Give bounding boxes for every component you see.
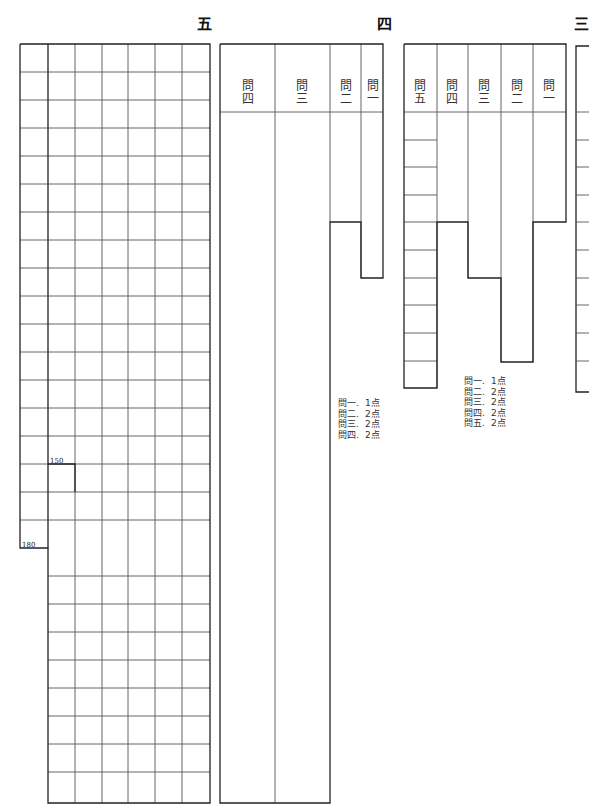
- section-four-q4-answer-box[interactable]: [221, 113, 274, 802]
- section-four-q1-label: 問 一: [363, 80, 383, 106]
- points-row: 問二. 2点: [338, 409, 380, 420]
- section-three-q5-answer-grid[interactable]: [405, 113, 436, 387]
- points-row: 問一. 1点: [464, 376, 506, 387]
- char-count-mark-150: 150: [50, 457, 63, 465]
- section-four-q3-answer-box[interactable]: [276, 113, 329, 802]
- section-four-q2-label: 問 二: [336, 80, 356, 106]
- section-four-q2-answer-box[interactable]: [331, 113, 360, 221]
- points-row: 問五. 2点: [464, 418, 506, 429]
- section-three-q4-label: 問 四: [442, 80, 462, 106]
- section-four-q3-label: 問 三: [292, 80, 312, 106]
- section-three-q3-answer-box[interactable]: [469, 113, 500, 277]
- section-four-q4-label: 問 四: [238, 80, 258, 106]
- section-four-q1-answer-box[interactable]: [362, 113, 382, 277]
- char-count-mark-180: 180: [22, 541, 35, 549]
- section-three-q2-label: 問 二: [507, 80, 527, 106]
- section-four-points: 問一. 1点 問二. 2点 問三. 2点 問四. 2点: [338, 398, 380, 440]
- section-three-q3-label: 問 三: [474, 80, 494, 106]
- section-three-q4-answer-box[interactable]: [438, 113, 467, 221]
- section-three-q2-answer-box[interactable]: [502, 113, 532, 361]
- points-row: 問三. 2点: [338, 419, 380, 430]
- section-three-q1-answer-box[interactable]: [534, 113, 565, 221]
- points-row: 問二. 2点: [464, 387, 506, 398]
- points-row: 問四. 2点: [338, 430, 380, 441]
- points-row: 問四. 2点: [464, 408, 506, 419]
- section-three-q1-label: 問 一: [539, 80, 559, 106]
- points-row: 問三. 2点: [464, 397, 506, 408]
- section-three-points: 問一. 1点 問二. 2点 問三. 2点 問四. 2点 問五. 2点: [464, 376, 506, 429]
- points-row: 問一. 1点: [338, 398, 380, 409]
- section-three-q5-label: 問 五: [410, 80, 430, 106]
